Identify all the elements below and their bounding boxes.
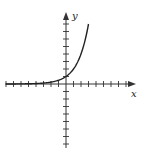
y-axis-arrow-icon <box>63 12 69 20</box>
y-axis-label: y <box>71 10 78 21</box>
x-axis-label: x <box>131 88 137 99</box>
x-axis-arrow-icon <box>128 81 136 87</box>
exponential-curve <box>6 24 89 84</box>
exponential-graph: x y <box>0 0 141 150</box>
